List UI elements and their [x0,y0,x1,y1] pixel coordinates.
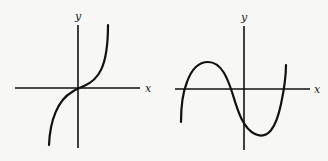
figure: x y x y [0,0,328,161]
right-y-label: y [240,11,248,24]
right-curve [181,62,286,136]
left-y-label: y [74,10,82,23]
right-panel: x y [175,11,321,150]
left-x-label: x [145,82,152,95]
left-panel: x y [15,10,152,148]
right-x-label: x [314,83,321,96]
